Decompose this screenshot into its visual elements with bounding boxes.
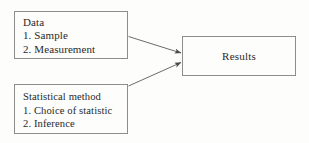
node-data: Data 1. Sample 2. Measurement [14,11,128,59]
node-statistical-method-text: Statistical method 1. Choice of statisti… [23,90,125,131]
node-data-text: Data 1. Sample 2. Measurement [23,16,125,56]
node-data-line-2: 2. Measurement [23,43,125,56]
diagram-canvas: Data 1. Sample 2. Measurement Statistica… [0,0,309,143]
node-results: Results [182,36,296,76]
node-data-line-1: 1. Sample [23,29,125,42]
node-statistical-method-line-2: 2. Inference [23,117,125,131]
node-statistical-method-line-1: 1. Choice of statistic [23,104,125,118]
node-statistical-method-line-title: Statistical method [23,90,125,104]
arrow-data-to-results [129,37,182,54]
node-results-label: Results [183,37,295,75]
arrow-method-to-results [129,63,182,87]
node-statistical-method: Statistical method 1. Choice of statisti… [14,84,128,134]
node-data-line-title: Data [23,16,125,29]
